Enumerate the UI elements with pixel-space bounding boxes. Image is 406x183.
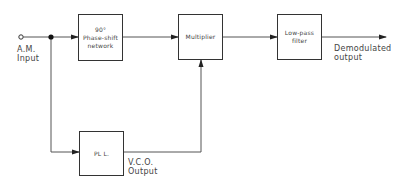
multiplier-label: Multiplier [186,33,216,41]
phase-shift-label: Phase-shift [83,34,118,42]
am-demodulator-block-diagram: 90° Phase-shift network Multiplier Low-p… [0,0,406,183]
demodulated-output-label: Demodulated output [334,44,391,62]
am-input-label: A.M. Input [17,45,39,63]
demodulated-output-label-line1: Demodulated [334,44,391,53]
phase-shift-network-block: 90° Phase-shift network [78,14,123,61]
vco-output-label: V.C.O. Output [128,158,158,176]
phase-shift-network-label: network [83,42,118,50]
pll-label: PL L. [94,150,109,158]
vco-output-label-line2: Output [128,167,158,176]
low-pass-label: Low-pass [285,29,314,37]
input-terminal-icon [19,35,23,39]
phase-shift-degree: 90° [83,26,118,34]
demodulated-output-label-line2: output [334,53,391,62]
low-pass-filter-block: Low-pass filter [277,14,322,60]
multiplier-block: Multiplier [178,14,223,60]
am-input-label-line1: A.M. [17,45,39,54]
junction-dot-icon [48,34,53,39]
pll-block: PL L. [79,131,124,176]
vco-output-label-line1: V.C.O. [128,158,158,167]
am-input-label-line2: Input [17,54,39,63]
filter-label: filter [285,37,314,45]
